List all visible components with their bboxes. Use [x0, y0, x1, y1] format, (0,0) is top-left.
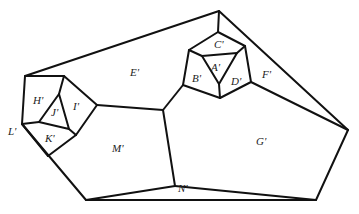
label-f: F' — [261, 68, 272, 80]
label-c: C' — [214, 38, 224, 50]
h-top-to-j — [59, 76, 64, 94]
center-to-pentagon — [163, 85, 183, 110]
bottomleft-to-lower — [86, 186, 175, 200]
label-j: J' — [51, 106, 59, 118]
label-b: B' — [192, 72, 202, 84]
label-n: N' — [177, 182, 188, 194]
label-a: A' — [210, 61, 221, 73]
l-to-j — [22, 122, 39, 124]
label-g: G' — [256, 135, 267, 147]
label-i: I' — [72, 100, 80, 112]
j-to-ik — [69, 129, 76, 135]
center-to-lower — [163, 110, 175, 186]
edges — [22, 11, 348, 200]
planar-graph-diagram: A' B' C' D' E' F' G' H' I' J' K' L' M' N… — [0, 0, 359, 214]
label-l: L' — [7, 125, 17, 137]
pentagon-to-right — [251, 82, 348, 130]
pent-right-to-a — [237, 46, 245, 53]
label-m: M' — [111, 142, 124, 154]
label-h: H' — [32, 94, 44, 106]
label-d: D' — [230, 75, 242, 87]
pent-bottom-to-a — [219, 84, 220, 98]
label-e: E' — [129, 66, 140, 78]
label-k: K' — [44, 132, 55, 144]
i-to-center — [97, 105, 163, 110]
lower-to-right — [175, 186, 316, 200]
pent-left-to-a — [189, 50, 202, 56]
apex-to-pentagon — [218, 11, 219, 32]
diagram-svg: A' B' C' D' E' F' G' H' I' J' K' L' M' N… — [0, 0, 359, 214]
